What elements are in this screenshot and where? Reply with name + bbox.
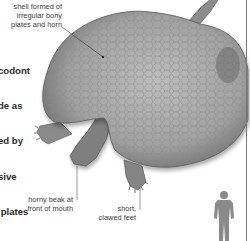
label-feet: short, clawed feet <box>86 204 136 222</box>
label-shell: shell formed of irregular bony plates an… <box>2 2 62 30</box>
front-left-limb <box>37 122 72 144</box>
label-line: irregular bony <box>2 11 62 20</box>
page: codont de as ed by sive plates rine and … <box>0 0 250 241</box>
label-line: front of mouth <box>10 204 73 213</box>
label-line: clawed feet <box>86 213 136 222</box>
label-line: plates and horn <box>2 20 62 29</box>
label-line: shell formed of <box>2 2 62 11</box>
label-line: horny beak at <box>10 195 73 204</box>
label-line: short, <box>86 204 136 213</box>
label-beak: horny beak at front of mouth <box>10 195 73 213</box>
human-silhouette-icon <box>212 190 236 241</box>
page-edge-rule <box>246 0 247 241</box>
